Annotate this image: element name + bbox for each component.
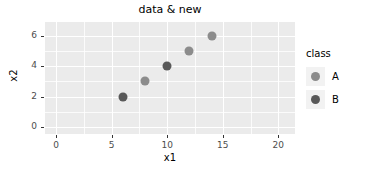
- y-axis-tick-mark: [41, 127, 44, 128]
- x-axis-tick-label: 0: [41, 140, 71, 150]
- x-axis-tick-label: 5: [97, 140, 127, 150]
- legend-item-label: A: [332, 71, 339, 82]
- legend-dot-icon: [311, 72, 320, 81]
- legend: class AB: [306, 48, 339, 111]
- legend-items: AB: [306, 65, 339, 111]
- gridline-minor-horizontal: [45, 81, 295, 82]
- data-point: [163, 62, 172, 71]
- page-title: data & new: [45, 3, 295, 17]
- gridline-minor-horizontal: [45, 112, 295, 113]
- legend-item-b: B: [306, 88, 339, 111]
- x-axis-tick-mark: [112, 135, 113, 138]
- gridline-minor-vertical: [139, 22, 140, 134]
- gridline-major-vertical: [167, 22, 168, 134]
- plot-panel: [45, 22, 295, 134]
- gridline-major-horizontal: [45, 36, 295, 37]
- x-axis-tick-mark: [56, 135, 57, 138]
- gridline-major-vertical: [223, 22, 224, 134]
- legend-title: class: [306, 48, 339, 59]
- gridline-minor-vertical: [251, 22, 252, 134]
- y-axis-tick-mark: [41, 97, 44, 98]
- gridline-major-vertical: [112, 22, 113, 134]
- legend-key-swatch: [306, 90, 325, 109]
- gridline-major-vertical: [56, 22, 57, 134]
- legend-item-a: A: [306, 65, 339, 88]
- x-axis-tick-mark: [223, 135, 224, 138]
- x-axis-tick-label: 20: [263, 140, 293, 150]
- gridline-minor-vertical: [84, 22, 85, 134]
- gridline-minor-horizontal: [45, 51, 295, 52]
- gridline-major-horizontal: [45, 97, 295, 98]
- x-axis-tick-label: 15: [208, 140, 238, 150]
- legend-key-swatch: [306, 67, 325, 86]
- y-axis-tick-mark: [41, 36, 44, 37]
- data-point: [207, 31, 216, 40]
- y-axis-title: x2: [8, 61, 19, 91]
- legend-dot-icon: [311, 95, 320, 104]
- gridline-major-vertical: [278, 22, 279, 134]
- x-axis-tick-label: 10: [152, 140, 182, 150]
- x-axis-tick-mark: [167, 135, 168, 138]
- x-axis-tick-mark: [278, 135, 279, 138]
- x-axis-title: x1: [45, 152, 295, 163]
- y-axis-tick-label: 0: [13, 121, 37, 131]
- y-axis-tick-mark: [41, 66, 44, 67]
- gridline-minor-vertical: [195, 22, 196, 134]
- data-point: [141, 77, 150, 86]
- scatter-plot-figure: data & new 051015200246 x1 x2 class AB: [0, 0, 373, 171]
- data-point: [185, 46, 194, 55]
- legend-item-label: B: [332, 94, 339, 105]
- y-axis-tick-label: 2: [13, 91, 37, 101]
- gridline-major-horizontal: [45, 127, 295, 128]
- y-axis-tick-label: 6: [13, 30, 37, 40]
- data-point: [118, 92, 127, 101]
